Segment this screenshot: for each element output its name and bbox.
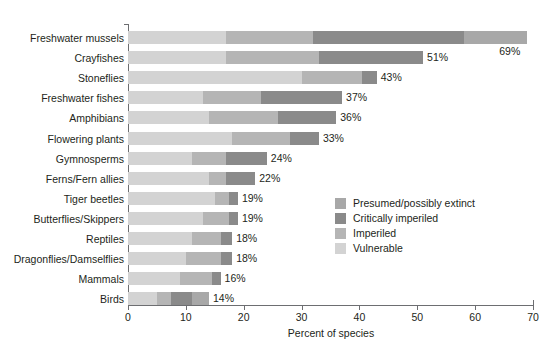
- bar-segment: [232, 132, 290, 145]
- bar-segment: [226, 51, 319, 64]
- category-label: Birds: [8, 293, 124, 305]
- bar-value-label: 19%: [242, 212, 263, 225]
- bar-row: Birds14%: [128, 292, 533, 305]
- category-label: Butterflies/Skippers: [8, 213, 124, 225]
- bar-value-label: 24%: [271, 152, 292, 165]
- legend-item: Critically imperiled: [335, 211, 475, 225]
- legend-item: Vulnerable: [335, 241, 475, 255]
- x-tick: [417, 305, 418, 310]
- bar-segment: [192, 152, 227, 165]
- category-label: Ferns/Fern allies: [8, 173, 124, 185]
- legend-label: Imperiled: [353, 227, 396, 239]
- bar-row: Flowering plants33%: [128, 132, 533, 145]
- bar-segment: [128, 31, 226, 44]
- bar-row: Freshwater mussels69%: [128, 31, 533, 44]
- bar-segment: [192, 232, 221, 245]
- category-label: Gymnosperms: [8, 153, 124, 165]
- legend-swatch: [335, 198, 346, 209]
- bar-segment: [171, 292, 191, 305]
- bar-value-label: 33%: [323, 132, 344, 145]
- bar-segment: [128, 132, 232, 145]
- bar-segment: [128, 172, 209, 185]
- bar-segment: [128, 212, 203, 225]
- x-tick-label: 70: [518, 311, 548, 323]
- x-tick: [302, 305, 303, 310]
- bar-segment: [157, 292, 171, 305]
- legend-swatch: [335, 243, 346, 254]
- x-tick: [475, 305, 476, 310]
- x-tick: [533, 305, 534, 310]
- x-tick: [128, 305, 129, 310]
- x-tick: [244, 305, 245, 310]
- bar-segment: [221, 232, 233, 245]
- bar-segment: [128, 252, 186, 265]
- bar-value-label: 43%: [381, 71, 402, 84]
- x-tick-label: 20: [229, 311, 259, 323]
- bar-row: Ferns/Fern allies22%: [128, 172, 533, 185]
- legend-swatch: [335, 228, 346, 239]
- bar-segment: [192, 292, 209, 305]
- bar-value-label: 14%: [213, 292, 234, 305]
- bar-segment: [290, 132, 319, 145]
- stacked-bar-chart: Freshwater mussels69%Crayfishes51%Stonef…: [0, 0, 558, 353]
- bar-row: Crayfishes51%: [128, 51, 533, 64]
- x-tick-label: 0: [113, 311, 143, 323]
- bar-segment: [128, 272, 180, 285]
- bar-segment: [221, 252, 233, 265]
- bar-segment: [128, 91, 203, 104]
- bar-segment: [203, 212, 229, 225]
- x-tick-label: 50: [402, 311, 432, 323]
- legend-label: Presumed/possibly extinct: [353, 197, 475, 209]
- category-label: Freshwater fishes: [8, 92, 124, 104]
- bar-segment: [215, 192, 229, 205]
- bar-segment: [313, 31, 463, 44]
- x-tick-label: 10: [171, 311, 201, 323]
- bars-layer: Freshwater mussels69%Crayfishes51%Stonef…: [128, 24, 533, 305]
- category-label: Tiger beetles: [8, 193, 124, 205]
- category-label: Flowering plants: [8, 133, 124, 145]
- x-tick-label: 60: [460, 311, 490, 323]
- category-label: Mammals: [8, 273, 124, 285]
- bar-segment: [203, 91, 261, 104]
- bar-segment: [212, 272, 221, 285]
- x-axis-title: Percent of species: [128, 327, 534, 339]
- bar-segment: [261, 91, 342, 104]
- bar-segment: [209, 111, 278, 124]
- bar-segment: [464, 31, 528, 44]
- bar-segment: [226, 152, 267, 165]
- bar-segment: [128, 292, 157, 305]
- bar-segment: [229, 192, 238, 205]
- bar-segment: [226, 172, 255, 185]
- bar-value-label: 19%: [242, 192, 263, 205]
- bar-row: Freshwater fishes37%: [128, 91, 533, 104]
- x-tick-label: 30: [287, 311, 317, 323]
- chart-legend: Presumed/possibly extinctCritically impe…: [335, 196, 475, 256]
- bar-segment: [319, 51, 423, 64]
- bar-segment: [278, 111, 336, 124]
- bar-value-label: 22%: [259, 172, 280, 185]
- legend-label: Critically imperiled: [353, 212, 438, 224]
- category-label: Crayfishes: [8, 52, 124, 64]
- category-label: Reptiles: [8, 233, 124, 245]
- bar-value-label: 51%: [427, 51, 448, 64]
- bar-segment: [128, 71, 302, 84]
- bar-segment: [128, 232, 192, 245]
- bar-value-label: 37%: [346, 91, 367, 104]
- bar-row: Gymnosperms24%: [128, 152, 533, 165]
- bar-segment: [226, 31, 313, 44]
- category-label: Freshwater mussels: [8, 32, 124, 44]
- category-label: Amphibians: [8, 112, 124, 124]
- bar-segment: [362, 71, 376, 84]
- bar-row: Mammals16%: [128, 272, 533, 285]
- category-label: Dragonflies/Damselflies: [8, 253, 124, 265]
- bar-segment: [128, 152, 192, 165]
- bar-value-label: 18%: [236, 252, 257, 265]
- legend-label: Vulnerable: [353, 242, 403, 254]
- bar-segment: [302, 71, 363, 84]
- legend-item: Presumed/possibly extinct: [335, 196, 475, 210]
- bar-segment: [180, 272, 212, 285]
- bar-row: Amphibians36%: [128, 111, 533, 124]
- bar-row: Stoneflies43%: [128, 71, 533, 84]
- bar-segment: [128, 51, 226, 64]
- x-tick: [359, 305, 360, 310]
